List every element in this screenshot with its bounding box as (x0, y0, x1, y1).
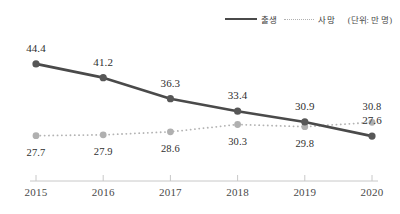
data-label-출생-2020: 27.6 (362, 114, 382, 126)
chart-container: 출생 사망 (단위: 만 명) 44.441.236.333.430.927.6… (0, 0, 400, 214)
data-label-출생-2018: 33.4 (228, 89, 248, 101)
x-axis-label-2015: 2015 (25, 186, 48, 198)
data-label-출생-2015: 44.4 (26, 42, 46, 54)
x-axis (30, 175, 378, 181)
data-label-사망-2020: 30.8 (363, 101, 382, 112)
x-axis-label-2019: 2019 (293, 186, 316, 198)
data-label-사망-2016: 27.9 (94, 145, 113, 156)
data-label-사망-2019: 29.8 (295, 137, 314, 148)
data-label-사망-2018: 30.3 (228, 135, 247, 146)
x-axis-label-2016: 2016 (92, 186, 115, 198)
data-label-출생-2017: 36.3 (161, 77, 181, 89)
plot-area: 44.441.236.333.430.927.627.727.928.630.3… (0, 0, 400, 214)
plot-svg (0, 0, 400, 214)
data-label-사망-2015: 27.7 (27, 146, 46, 157)
x-axis-label-2020: 2020 (361, 186, 384, 198)
x-axis-label-2018: 2018 (226, 186, 249, 198)
data-label-출생-2016: 41.2 (93, 56, 113, 68)
data-label-사망-2017: 28.6 (161, 142, 180, 153)
series-deaths (33, 119, 376, 139)
data-label-출생-2019: 30.9 (295, 100, 315, 112)
x-axis-label-2017: 2017 (159, 186, 182, 198)
